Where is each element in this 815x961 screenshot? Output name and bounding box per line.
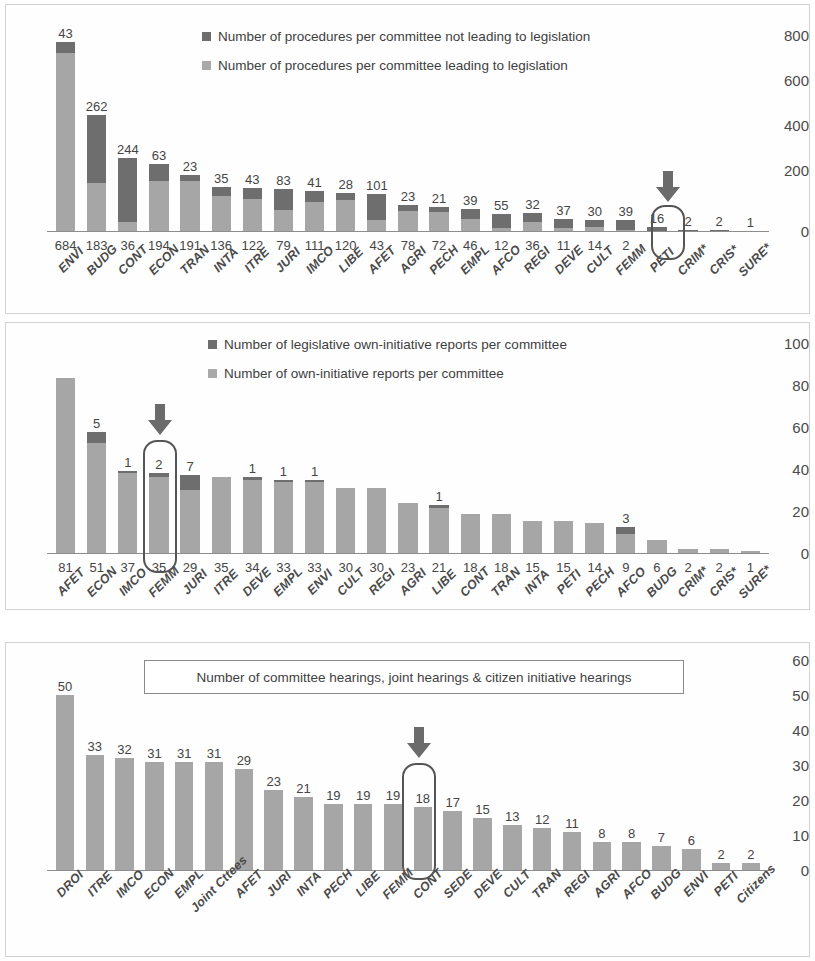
bar [384,804,402,871]
bar-cell: 23 [259,660,289,870]
bar-cell: 1 [237,337,268,553]
bar-value-label: 1 [435,490,442,503]
bar-value-label: 32 [525,198,539,211]
category-tick: BUDG [647,877,677,947]
bar-cell: 19 [348,660,378,870]
y-tick: 20 [769,504,809,519]
bar [473,818,491,871]
bar-cell: 43 [50,23,81,231]
category-tick: JURI [175,575,206,627]
bar [115,758,133,870]
bar-group-own-initiative: 512711113 [50,337,766,553]
plot-area-procedures: 800 600 400 200 0 Number of procedures p… [6,5,809,313]
bar-segment-light [115,758,133,870]
bar [398,503,417,553]
category-tick: PETI [706,877,736,947]
bar-value-label: 1 [280,465,287,478]
bar-segment-light [414,807,432,870]
category-tick: ECON [81,575,112,627]
bar-value-label: 19 [356,789,370,802]
bar-value-label: 7 [658,831,665,844]
bar-segment-light [443,811,461,871]
bar-cell: 8 [617,660,647,870]
bar-segment-light [87,183,106,231]
bar-segment-light [652,846,670,871]
bar-segment-light [523,222,542,231]
bar-value-label: 7 [186,460,193,473]
bar-value-label: 39 [619,205,633,218]
category-tick: AFET [50,575,81,627]
bar-segment-dark [523,213,542,221]
bar [367,488,386,553]
bar [461,209,480,231]
category-tick: AFET [361,253,392,311]
bar-cell: 1 [299,337,330,553]
category-tick: TRAN [175,253,206,311]
bar [274,189,293,231]
bar-cell [579,337,610,553]
bar-segment-light [533,828,551,870]
bar-value-label: 1 [747,216,754,229]
bar-cell: 41 [299,23,330,231]
bar-value-label: 33 [88,740,102,753]
bar-cell: 17 [438,660,468,870]
bar [294,797,312,871]
category-tick: ECON [139,877,169,947]
bar-segment-light [398,211,417,231]
bar-cell: 28 [330,23,361,231]
y-tick: 600 [769,73,809,88]
bar-value-label: 21 [432,192,446,205]
bar-cell: 1 [112,337,143,553]
bar-value-label: 2 [716,215,723,228]
bar [742,863,760,870]
bar-cell: 83 [268,23,299,231]
category-tick: TRAN [527,877,557,947]
bar-value-label: 11 [565,817,579,830]
bar-cell [206,337,237,553]
bar-value-label: 1 [124,456,131,469]
y-tick: 60 [771,653,809,668]
bar [336,488,355,553]
category-tick: DROI [50,877,80,947]
bar-cell [50,337,81,553]
bar-segment-light [305,482,324,553]
category-tick: PETI [641,253,672,311]
bar [212,477,231,553]
bar-cell: 33 [80,660,110,870]
bar-cell: 12 [527,660,557,870]
category-tick: LIBE [330,253,361,311]
bar-cell [517,337,548,553]
chart-panel-own-initiative: 100 80 60 40 20 0 Number of legislative … [5,322,810,610]
bar [554,521,573,553]
bar [367,194,386,231]
category-row-procedures: ENVIBUDGCONTECONTRANINTAITREJURIIMCOLIBE… [50,253,766,311]
bar [563,832,581,871]
bar [429,207,448,231]
category-tick: IMCO [112,575,143,627]
bar-value-label: 2 [718,848,725,861]
bar-segment-light [118,222,137,231]
bar-segment-light [336,200,355,231]
y-tick: 400 [769,118,809,133]
bar-segment-dark [149,164,168,180]
bar [414,807,432,870]
bar-value-label: 244 [117,143,139,156]
bar [205,762,223,871]
bar-segment-light [492,514,511,553]
bar [145,762,163,871]
bar-value-label: 16 [650,212,664,225]
bar-cell: 32 [517,23,548,231]
bar-value-label: 31 [147,747,161,760]
x-axis-line [47,231,769,232]
bar-cell: 32 [110,660,140,870]
bar-value-label: 5 [93,417,100,430]
bar-segment-light [274,210,293,231]
category-row-own-initiative: AFETECONIMCOFEMMJURIITREDEVEEMPLENVICULT… [50,575,766,627]
bar [585,220,604,231]
bar [398,205,417,231]
category-tick: DEVE [237,575,268,627]
bar-segment-light [205,762,223,871]
category-tick: AGRI [392,253,423,311]
bar-segment-light [593,842,611,870]
category-tick: REGI [517,253,548,311]
